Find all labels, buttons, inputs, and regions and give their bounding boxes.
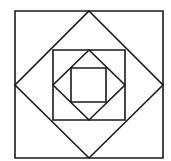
outer-square xyxy=(15,11,163,158)
nested-squares-diagram xyxy=(0,0,171,161)
inner-square xyxy=(71,68,106,102)
inner-diamond xyxy=(53,50,125,120)
middle-square xyxy=(53,50,125,120)
outer-diamond xyxy=(15,11,163,158)
